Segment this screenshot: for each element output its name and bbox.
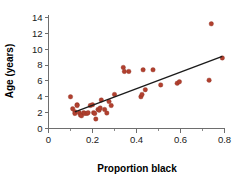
data-point: [105, 111, 110, 116]
data-point: [158, 83, 163, 88]
data-point: [177, 79, 182, 84]
data-point: [141, 68, 146, 73]
data-point: [98, 106, 103, 111]
data-point: [92, 111, 97, 116]
y-tick-label: 0: [37, 123, 42, 134]
x-axis-ticks: [49, 129, 225, 133]
data-point: [68, 95, 73, 100]
data-point: [127, 69, 132, 74]
x-tick-label: 0.2: [86, 134, 99, 145]
y-tick-label: 12: [32, 28, 43, 39]
data-point: [86, 110, 91, 115]
data-point: [94, 117, 99, 122]
data-point: [209, 22, 214, 27]
x-axis-title: Proportion black: [97, 163, 177, 174]
data-point: [143, 87, 148, 92]
tick-label-group: 0246810121400.20.40.60.8: [32, 12, 231, 145]
data-point: [121, 65, 126, 70]
scatter-plot-figure: 0246810121400.20.40.60.8 Proportion blac…: [0, 0, 239, 177]
y-axis-title: Age (years): [4, 44, 15, 98]
y-tick-label: 2: [37, 107, 42, 118]
data-point: [140, 92, 145, 97]
data-point: [122, 69, 127, 74]
x-tick-label: 0: [46, 134, 51, 145]
data-point: [151, 68, 156, 73]
x-tick-label: 0.8: [218, 134, 231, 145]
y-tick-label: 4: [37, 91, 42, 102]
data-points-group: [68, 22, 224, 122]
x-tick-label: 0.6: [174, 134, 187, 145]
trend-line: [75, 56, 222, 112]
chart-canvas: 0246810121400.20.40.60.8 Proportion blac…: [0, 0, 239, 177]
data-point: [109, 103, 114, 108]
y-tick-label: 14: [32, 12, 43, 23]
x-tick-label: 0.4: [130, 134, 143, 145]
y-tick-label: 10: [32, 44, 43, 55]
y-tick-label: 6: [37, 75, 42, 86]
y-tick-label: 8: [37, 59, 42, 70]
data-point: [75, 103, 80, 108]
data-point: [207, 78, 212, 83]
